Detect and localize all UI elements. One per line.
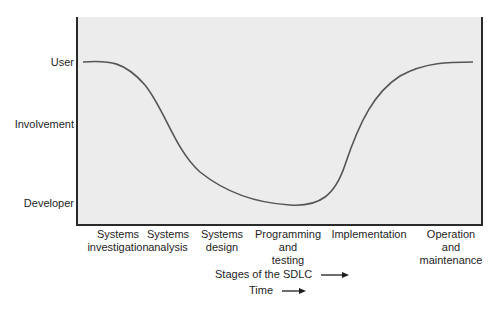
x-label-line: Systems — [87, 228, 148, 241]
x-label-line: maintenance — [420, 254, 483, 267]
x-label-line: Systems — [147, 228, 189, 241]
y-label-developer: Developer — [24, 197, 74, 209]
x-axis-title-stages: Stages of the SDLC — [215, 268, 349, 280]
right-arrow-icon — [321, 271, 349, 279]
y-label-involvement: Involvement — [15, 118, 74, 130]
x-label-implementation: Implementation — [331, 228, 406, 241]
x-axis-title-text: Time — [249, 284, 273, 296]
x-label-systems-analysis: Systems analysis — [147, 228, 189, 254]
x-label-line: Systems — [201, 228, 243, 241]
x-label-line: analysis — [147, 241, 189, 254]
x-axis-title-time: Time — [249, 284, 306, 296]
x-label-line: Implementation — [331, 228, 406, 241]
x-label-line: Operation — [420, 228, 483, 241]
x-label-line: and — [420, 241, 483, 254]
right-arrow-icon — [282, 287, 306, 295]
y-label-user: User — [51, 56, 74, 68]
x-label-line: testing — [255, 254, 321, 267]
x-label-systems-investigation: Systems investigation — [87, 228, 148, 254]
x-label-operation-maintenance: Operation and maintenance — [420, 228, 483, 267]
x-label-systems-design: Systems design — [201, 228, 243, 254]
x-label-programming-testing: Programming and testing — [255, 228, 321, 267]
x-label-line: Programming — [255, 228, 321, 241]
x-label-line: investigation — [87, 241, 148, 254]
x-axis-title-text: Stages of the SDLC — [215, 268, 312, 280]
x-label-line: and — [255, 241, 321, 254]
x-label-line: design — [201, 241, 243, 254]
